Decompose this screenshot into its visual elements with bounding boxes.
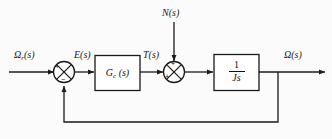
block-diagram: Ωr(s) E(s) T(s) N(s) Ω(s) Gc (s) 1 Js + … bbox=[0, 0, 332, 139]
controller-block-label: Gc (s) bbox=[95, 68, 140, 80]
diagram-canvas bbox=[0, 0, 332, 139]
plant-block-transfer-function: 1 Js bbox=[214, 60, 259, 83]
disturbance-junction-plus-sign-top: + bbox=[171, 60, 175, 67]
error-junction-plus-sign: + bbox=[55, 63, 59, 70]
disturbance-signal-label: N(s) bbox=[162, 8, 179, 18]
torque-signal-label: T(s) bbox=[143, 50, 159, 60]
error-junction-minus-sign: − bbox=[61, 76, 65, 83]
plant-numerator: 1 bbox=[214, 60, 259, 71]
error-signal-label: E(s) bbox=[74, 50, 91, 60]
plant-denominator: Js bbox=[214, 72, 259, 83]
reference-signal-label: Ωr(s) bbox=[14, 50, 35, 62]
output-signal-label: Ω(s) bbox=[284, 50, 302, 60]
disturbance-junction-plus-sign-left: + bbox=[165, 73, 169, 80]
